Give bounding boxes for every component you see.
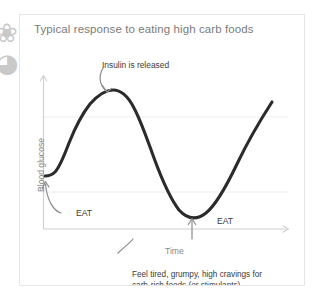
y-axis-label: Blood glucose xyxy=(36,135,46,195)
watermark-glyph-bottom: ◕ xyxy=(0,48,20,78)
blood-glucose-plot xyxy=(20,15,305,286)
crash-annotation-label: Feel tired, grumpy, high cravings for ca… xyxy=(132,269,292,286)
chart-card: Typical response to eating high carb foo… xyxy=(19,14,305,286)
blood-glucose-curve xyxy=(45,90,272,218)
left-edge-watermark: ❀ ◕ xyxy=(0,18,20,110)
crash-arrow-curve xyxy=(118,239,133,253)
x-axis-label: Time xyxy=(165,246,184,256)
insulin-annotation-label: Insulin is released xyxy=(102,60,169,70)
crash-annotation-line-2: carb-rich foods (or stimulants) xyxy=(132,280,292,286)
eat-label-right: EAT xyxy=(217,216,233,226)
watermark-glyph-top: ❀ xyxy=(0,18,20,48)
eat-label-left: EAT xyxy=(76,208,92,218)
insulin-arrow-curve xyxy=(100,68,106,91)
eat-left-arrow-curve xyxy=(46,184,62,213)
crash-annotation-line-1: Feel tired, grumpy, high cravings for xyxy=(132,269,292,280)
